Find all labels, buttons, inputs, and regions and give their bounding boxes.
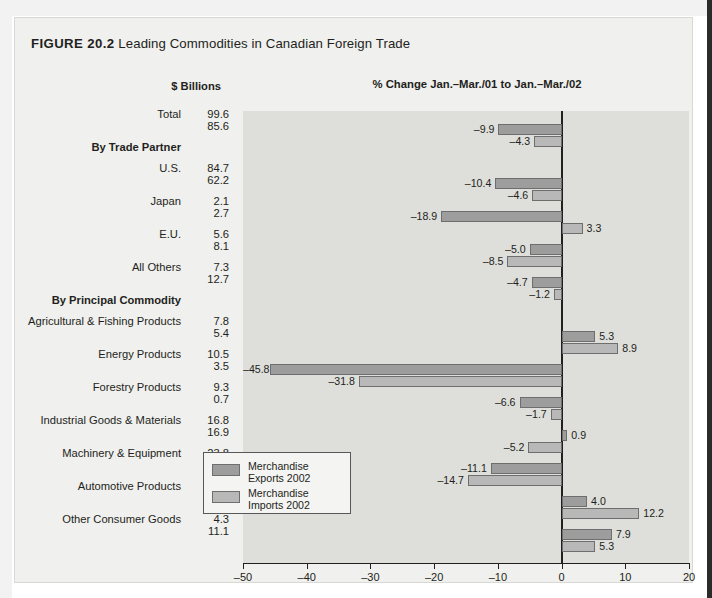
- row-value-exports: 7.8: [191, 315, 229, 327]
- bar-exports: [562, 331, 596, 342]
- row-category-label: U.S.: [159, 162, 181, 174]
- bar-value-label-imports: –1.7: [243, 409, 547, 420]
- bar-value-label-exports: –4.7: [243, 277, 528, 288]
- row-label-second: 16.9: [15, 426, 229, 441]
- row-value-imports: 0.7: [191, 393, 229, 405]
- row-label-second: 5.4: [15, 327, 229, 342]
- x-axis-tick: [434, 563, 435, 569]
- row-label-second: 25.7: [15, 459, 229, 474]
- bar-value-label-imports: –4.6: [243, 190, 528, 201]
- bar-value-label-imports: 3.3: [587, 223, 602, 234]
- bar-value-label-exports: 4.0: [591, 496, 606, 507]
- legend-label-exports: MerchandiseExports 2002: [248, 460, 310, 485]
- row-category-label: E.U.: [159, 228, 181, 240]
- figure-page: FIGURE 20.2 Leading Commodities in Canad…: [0, 0, 712, 598]
- x-axis-tick: [307, 563, 308, 569]
- bar-imports: [562, 541, 596, 552]
- bar-value-label-imports: –4.3: [243, 136, 530, 147]
- row-value-exports: 7.3: [191, 261, 229, 273]
- bar-imports: [507, 256, 561, 267]
- bar-exports: [270, 364, 562, 375]
- row-category-label: Automotive Products: [78, 480, 181, 492]
- figure-title: FIGURE 20.2 Leading Commodities in Canad…: [31, 36, 410, 51]
- bar-value-label-imports: –8.5: [243, 256, 503, 267]
- figure-number: FIGURE 20.2: [31, 36, 115, 51]
- bar-value-label-exports: –18.9: [243, 211, 437, 222]
- bar-value-label-imports: 8.9: [622, 343, 637, 354]
- chart-header: % Change Jan.–Mar./01 to Jan.–Mar./02: [277, 78, 677, 90]
- chart-legend: MerchandiseExports 2002MerchandiseImport…: [203, 452, 351, 514]
- bar-exports: [495, 178, 561, 189]
- x-axis-tick: [562, 563, 563, 569]
- row-value-imports: 2.7: [191, 207, 229, 219]
- bar-exports: [530, 244, 562, 255]
- bar-imports: [468, 475, 562, 486]
- section-heading-label: By Trade Partner: [91, 141, 181, 153]
- bar-exports: [520, 397, 562, 408]
- row-category-label: All Others: [132, 261, 181, 273]
- bar-imports: [532, 190, 561, 201]
- row-category-label: Forestry Products: [93, 381, 181, 393]
- x-axis-tick-label: –10: [478, 571, 518, 583]
- row-label-second: 8.1: [15, 240, 229, 255]
- x-axis-tick-label: –30: [350, 571, 390, 583]
- row-category-label: Machinery & Equipment: [62, 447, 181, 459]
- row-value-exports: 2.1: [191, 195, 229, 207]
- row-category-label: Total: [157, 108, 181, 120]
- row-category-label: Energy Products: [98, 348, 181, 360]
- row-category-label: Other Consumer Goods: [62, 513, 181, 525]
- bar-exports: [562, 430, 568, 441]
- row-value-exports: 4.3: [191, 513, 229, 525]
- bar-value-label-exports: 7.9: [616, 529, 631, 540]
- row-value-exports: 10.5: [191, 348, 229, 360]
- row-value-imports: 85.6: [191, 120, 229, 132]
- legend-swatch-exports: [212, 464, 240, 476]
- row-category-label: Agricultural & Fishing Products: [28, 315, 181, 327]
- x-axis-tick-label: 0: [542, 571, 582, 583]
- bar-imports: [528, 442, 561, 453]
- x-axis-tick: [243, 563, 244, 569]
- bar-value-label-imports: –31.8: [243, 376, 355, 387]
- x-axis-tick-label: –50: [223, 571, 263, 583]
- x-axis-tick-label: 20: [669, 571, 709, 583]
- bar-imports: [562, 343, 619, 354]
- row-value-imports: 12.7: [191, 273, 229, 285]
- bar-exports: [491, 463, 562, 474]
- bar-imports: [534, 136, 561, 147]
- bar-exports: [498, 124, 561, 135]
- row-label-second: 0.7: [15, 393, 229, 408]
- figure-panel: FIGURE 20.2 Leading Commodities in Canad…: [14, 17, 693, 583]
- bar-imports: [562, 223, 583, 234]
- row-value-imports: 8.1: [191, 240, 229, 252]
- row-value-exports: 99.6: [191, 108, 229, 120]
- figure-title-text: Leading Commodities in Canadian Foreign …: [118, 36, 410, 51]
- row-label-second: 85.6: [15, 120, 229, 135]
- row-value-imports: 11.1: [191, 525, 229, 537]
- bar-value-label-exports: 5.3: [599, 331, 614, 342]
- page-edge-right: [707, 0, 712, 598]
- section-heading: By Trade Partner: [15, 141, 229, 156]
- units-header: $ Billions: [15, 80, 229, 92]
- x-axis: –50–40–30–20–1001020: [243, 563, 689, 593]
- bar-exports: [562, 529, 612, 540]
- bar-value-label-exports: –9.9: [243, 124, 494, 135]
- row-value-imports: 16.9: [191, 426, 229, 438]
- row-value-imports: 62.2: [191, 174, 229, 186]
- bar-imports: [554, 289, 562, 300]
- bar-imports: [562, 508, 640, 519]
- bar-value-label-imports: 12.2: [643, 508, 664, 519]
- page-edge-top: [0, 0, 712, 16]
- page-edge-left: [0, 0, 12, 598]
- row-label-second: 11.1: [15, 525, 229, 540]
- bar-value-label-exports: 0.9: [571, 430, 586, 441]
- row-label-second: 2.7: [15, 207, 229, 222]
- bar-exports: [532, 277, 562, 288]
- x-axis-tick: [498, 563, 499, 569]
- row-category-label: Industrial Goods & Materials: [40, 414, 181, 426]
- row-category-label: Japan: [151, 195, 181, 207]
- bar-value-label-exports: –45.8: [243, 364, 266, 375]
- x-axis-tick-label: –20: [414, 571, 454, 583]
- row-value-exports: 9.3: [191, 381, 229, 393]
- row-label-second: 19.1: [15, 492, 229, 507]
- section-heading-label: By Principal Commodity: [52, 294, 181, 306]
